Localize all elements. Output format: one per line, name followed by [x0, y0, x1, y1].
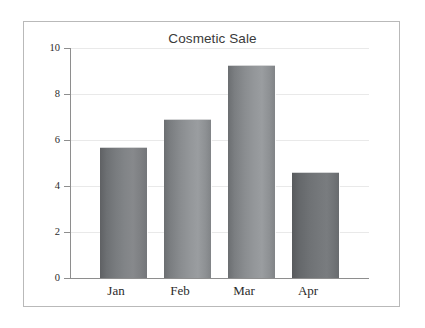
- bar-mar-fill: [228, 65, 275, 278]
- bar-feb-fill: [164, 119, 211, 278]
- bar-apr-fill: [292, 172, 339, 278]
- y-axis-labels: 10 8 6 4 2 0: [24, 22, 60, 308]
- gridline-0-baseline: [71, 278, 369, 279]
- bar-jan-fill: [100, 147, 147, 278]
- y-tick-label-6: 6: [26, 135, 60, 146]
- chart-title: Cosmetic Sale: [24, 31, 401, 46]
- y-tick-label-2: 2: [26, 227, 60, 238]
- bar-feb[interactable]: [164, 48, 211, 278]
- y-tick-mark-2: [64, 232, 71, 233]
- bar-mar[interactable]: [228, 48, 275, 278]
- x-tick-label-apr: Apr: [268, 284, 348, 297]
- chart-card: Cosmetic Sale 10 8 6 4 2 0: [23, 21, 400, 307]
- y-tick-mark-6: [64, 140, 71, 141]
- plot-area: [71, 48, 369, 278]
- y-tick-label-10: 10: [26, 43, 60, 54]
- bar-apr[interactable]: [292, 48, 339, 278]
- y-tick-mark-0: [64, 278, 71, 279]
- y-tick-label-8: 8: [26, 89, 60, 100]
- y-tick-label-4: 4: [26, 181, 60, 192]
- y-tick-mark-10: [64, 48, 71, 49]
- y-tick-mark-4: [64, 186, 71, 187]
- y-tick-mark-8: [64, 94, 71, 95]
- bar-jan[interactable]: [100, 48, 147, 278]
- y-tick-label-0: 0: [26, 273, 60, 284]
